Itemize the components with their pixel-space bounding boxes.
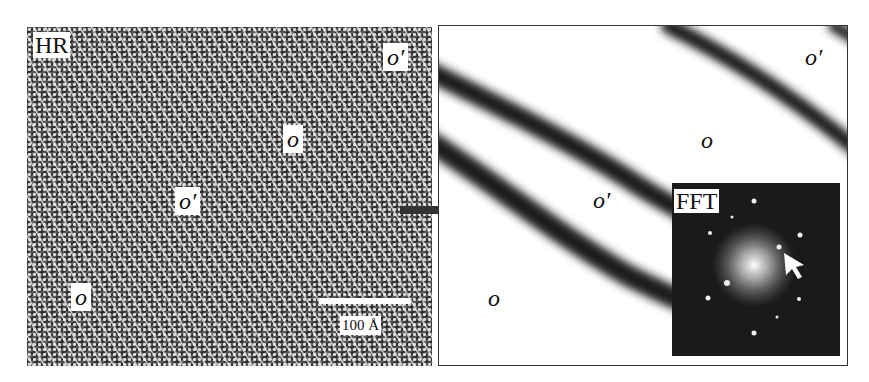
scale-bar-label: 100 Å	[340, 316, 381, 335]
region-label-o-prime: o′	[801, 43, 826, 71]
region-label-o: o	[697, 126, 717, 154]
region-label-o: o	[484, 284, 504, 312]
region-label-o-prime: o′	[175, 187, 200, 215]
region-label-o: o	[71, 283, 91, 311]
region-label-o-prime: o′	[383, 43, 408, 71]
region-label-o-prime: o′	[589, 186, 614, 214]
scale-bar	[319, 298, 411, 304]
fft-label: FFT	[674, 189, 719, 213]
hr-label: HR	[33, 32, 70, 58]
region-label-o: o	[283, 125, 303, 153]
hr-lattice-image: HR o′ o o′ o 100 Å	[27, 27, 432, 366]
fft-inset: FFT	[672, 183, 840, 356]
